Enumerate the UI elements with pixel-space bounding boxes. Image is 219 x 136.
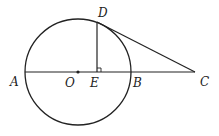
label-b: B (132, 76, 142, 90)
geometry-diagram: A O E B C D (0, 0, 219, 136)
segment-dc (97, 22, 195, 72)
label-c: C (200, 75, 209, 89)
label-o: O (65, 76, 75, 90)
label-d: D (97, 6, 108, 20)
label-a: A (9, 75, 19, 89)
label-e: E (89, 76, 99, 90)
center-point-o (76, 70, 79, 73)
